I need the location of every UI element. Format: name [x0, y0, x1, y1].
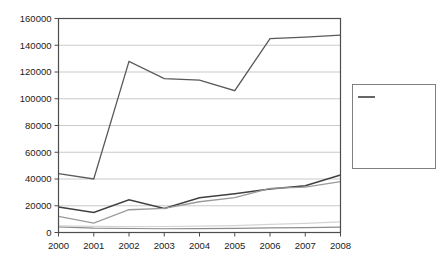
- x-tick-label: 2001: [83, 240, 104, 251]
- x-axis-ticks: 200020012002200320042005200620072008: [48, 233, 351, 251]
- series-line-iran: [59, 222, 341, 227]
- y-tick-label: 100000: [20, 93, 52, 104]
- x-tick-label: 2000: [48, 240, 69, 251]
- line-chart-figure: 0200004000060000800001000001200001400001…: [0, 0, 444, 275]
- x-tick-label: 2003: [154, 240, 175, 251]
- y-axis-ticks: 0200004000060000800001000001200001400001…: [20, 13, 59, 238]
- series-lines: [59, 35, 341, 229]
- series-line-malaysia: [59, 182, 341, 223]
- y-tick-label: 60000: [25, 147, 51, 158]
- series-line-india: [59, 175, 341, 212]
- x-tick-label: 2008: [330, 240, 351, 251]
- x-tick-label: 2006: [259, 240, 280, 251]
- y-tick-label: 40000: [25, 173, 51, 184]
- series-line-indonesia: [59, 227, 341, 229]
- chart-legend: [353, 85, 436, 169]
- gridlines: [59, 45, 341, 206]
- y-tick-label: 0: [46, 227, 51, 238]
- y-tick-label: 120000: [20, 66, 52, 77]
- x-tick-label: 2005: [224, 240, 245, 251]
- x-tick-label: 2007: [295, 240, 316, 251]
- y-tick-label: 20000: [25, 200, 51, 211]
- x-tick-label: 2004: [189, 240, 210, 251]
- x-tick-label: 2002: [118, 240, 139, 251]
- series-line-turkey: [59, 35, 341, 179]
- y-tick-label: 160000: [20, 13, 52, 24]
- y-tick-label: 140000: [20, 40, 52, 51]
- y-tick-label: 80000: [25, 120, 51, 131]
